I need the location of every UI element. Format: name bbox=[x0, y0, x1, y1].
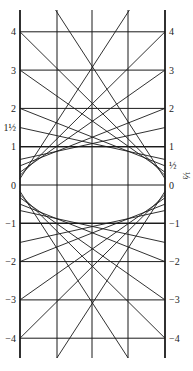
right-axis-labels: 4321½0−1−2−3−4 bbox=[169, 26, 180, 343]
axis-label: −1 bbox=[169, 218, 180, 229]
side-note-third: ⅓ bbox=[181, 172, 192, 180]
tangent-line bbox=[20, 10, 129, 179]
axis-label: −2 bbox=[169, 256, 180, 267]
tangent-line bbox=[20, 191, 128, 358]
axis-label: 3 bbox=[169, 65, 174, 76]
axis-label: 2 bbox=[11, 103, 16, 114]
tangent-line bbox=[56, 10, 165, 179]
axis-label: 0 bbox=[169, 180, 174, 191]
ellipse-envelope-diagram: 4321½10−1−2−3−4 4321½0−1−2−3−4 ⅓ bbox=[0, 0, 193, 371]
axis-label: −3 bbox=[5, 294, 16, 305]
axis-label: 3 bbox=[11, 65, 16, 76]
axis-label: ½ bbox=[169, 160, 177, 171]
axis-label: −2 bbox=[5, 256, 16, 267]
axis-label: 1 bbox=[11, 141, 16, 152]
grid-lines bbox=[20, 10, 165, 358]
axis-label: −4 bbox=[169, 333, 180, 344]
left-axis-labels: 4321½10−1−2−3−4 bbox=[4, 26, 17, 343]
axis-label: 0 bbox=[11, 180, 16, 191]
axis-label: 4 bbox=[11, 26, 16, 37]
axis-label: 1½ bbox=[4, 122, 17, 133]
axis-label: 2 bbox=[169, 103, 174, 114]
axis-label: −4 bbox=[5, 333, 16, 344]
axis-label: 4 bbox=[169, 26, 174, 37]
axis-label: −3 bbox=[169, 294, 180, 305]
axis-label: −1 bbox=[5, 218, 16, 229]
tangent-line bbox=[57, 191, 165, 358]
axis-label: 1 bbox=[169, 141, 174, 152]
